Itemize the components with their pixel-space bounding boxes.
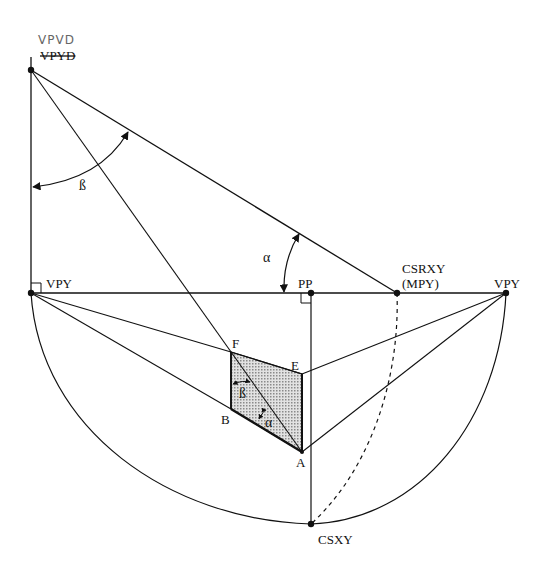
label-alpha-top: α [263,250,271,265]
point-a [300,450,304,454]
label-vpy-right: VPY [494,276,521,291]
diagram-svg: VPVD VPYD VPY PP CSRXY (MPY) VPY CSXY F … [0,0,551,572]
label-vpy-left: VPY [46,276,73,291]
label-e: E [291,358,299,373]
label-a: A [296,455,306,470]
label-f: F [232,336,239,351]
line-vpyd-a [31,70,302,452]
point-csxy [308,521,314,527]
label-b: B [221,412,230,427]
point-vpy-left [28,290,34,296]
label-pp: PP [298,276,312,291]
label-csrxy: CSRXY [402,261,446,276]
line-e-vpy-right [302,293,506,374]
label-mpy: (MPY) [402,276,439,291]
perspective-diagram: VPVD VPYD VPY PP CSRXY (MPY) VPY CSXY F … [0,0,551,572]
measuring-arc-dashed [311,293,397,524]
point-csrxy [394,290,400,296]
point-vpyd [28,67,34,73]
label-alpha-inner: α [265,415,273,430]
label-beta-inner: ß [239,386,246,401]
label-vpyd: VPYD [40,48,75,63]
alpha-arc-top [284,234,299,292]
label-vpyd-handwritten: VPVD [38,33,75,47]
line-a-vpy-right [302,293,506,452]
line-vpy-left-f [31,293,231,352]
label-csxy: CSXY [318,532,353,547]
label-beta-top: ß [79,178,86,193]
